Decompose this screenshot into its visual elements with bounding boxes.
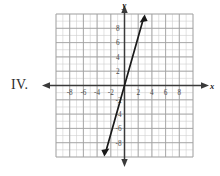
y-tick-label: 6 <box>116 39 120 47</box>
y-axis-label: y <box>122 0 127 10</box>
x-tick-label: -6 <box>80 89 86 97</box>
y-tick-label: 8 <box>116 25 120 33</box>
x-tick-label: -2 <box>108 89 114 97</box>
x-axis-arrow-left <box>42 82 50 88</box>
y-tick-label: -6 <box>116 125 122 133</box>
y-tick-label: 2 <box>116 68 120 76</box>
x-tick-label: -4 <box>94 89 100 97</box>
x-tick-label: 8 <box>178 89 182 97</box>
y-tick-label: -8 <box>116 140 122 148</box>
x-tick-label: 2 <box>136 89 140 97</box>
x-axis-label: x <box>209 81 215 91</box>
y-tick-label: 4 <box>116 54 120 62</box>
x-tick-label: 6 <box>164 89 168 97</box>
y-axis-arrow-down <box>121 159 127 167</box>
x-tick-label: 4 <box>150 89 154 97</box>
x-tick-label: -8 <box>67 89 73 97</box>
coordinate-plane-figure: x y -8 -6 -4 -2 2 4 6 8 8 6 4 2 -2 -4 -6… <box>0 0 220 176</box>
x-axis-arrow-right <box>201 82 209 88</box>
